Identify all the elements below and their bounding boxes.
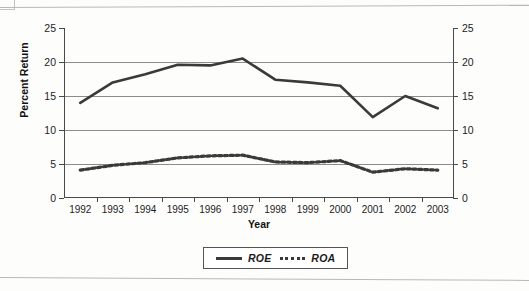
plot-area: 0510152025 0510152025 199219931994199519…	[64, 28, 454, 198]
y-axis-left-label-5: 5	[30, 159, 56, 169]
legend-item-roe: ROE	[216, 252, 271, 264]
x-axis-title: Year	[64, 218, 454, 230]
y-axis-left-label-15: 15	[30, 91, 56, 101]
data-series-lines	[64, 28, 454, 198]
scan-corner-mark	[0, 0, 15, 10]
y-axis-right-label-0: 0	[462, 193, 488, 203]
y-axis-right-label-5: 5	[462, 159, 488, 169]
x-axis-label-2003: 2003	[416, 204, 460, 215]
scan-edge-rule-top	[0, 5, 529, 8]
legend-swatch-dotted-icon	[280, 257, 305, 260]
y-axis-right-label-10: 10	[462, 125, 488, 135]
y-axis-right-label-25: 25	[462, 23, 488, 33]
y-axis-left-label-10: 10	[30, 125, 56, 135]
y-axis-right-label-15: 15	[462, 91, 488, 101]
y-axis-right-label-20: 20	[462, 57, 488, 67]
chart-legend: ROE ROA	[203, 247, 348, 269]
legend-item-roa: ROA	[280, 252, 335, 264]
series-line-roe	[80, 59, 438, 117]
series-line-roa	[80, 155, 438, 172]
y-tick-right-0	[453, 198, 458, 199]
y-axis-left-label-20: 20	[30, 57, 56, 67]
legend-swatch-solid-icon	[216, 257, 242, 260]
legend-label-roa: ROA	[311, 252, 335, 264]
y-axis-title: Percent Return	[18, 35, 30, 125]
line-chart: Percent Return 0510152025 0510152025 199…	[0, 14, 529, 244]
chart-figure: Percent Return 0510152025 0510152025 199…	[0, 0, 529, 291]
scan-edge-rule-bottom	[0, 277, 529, 281]
y-axis-left-label-0: 0	[30, 193, 56, 203]
y-axis-left-label-25: 25	[30, 23, 56, 33]
y-tick-left-0	[59, 198, 64, 199]
legend-label-roe: ROE	[248, 252, 271, 264]
